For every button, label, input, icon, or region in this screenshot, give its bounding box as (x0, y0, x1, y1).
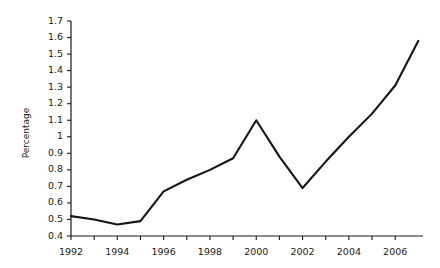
y-tick-label: 1.5 (48, 48, 63, 59)
x-tick-label: 1996 (152, 246, 176, 257)
x-tick-label: 1994 (105, 246, 129, 257)
y-tick-label: 0.7 (48, 180, 63, 191)
y-tick-label: 1.2 (48, 97, 63, 108)
y-tick-label: 0.9 (48, 147, 63, 158)
line-chart: 0.40.50.60.70.80.911.11.21.31.41.51.61.7… (0, 0, 440, 268)
y-tick-label: 0.6 (48, 196, 63, 207)
y-tick-label: 0.5 (48, 213, 63, 224)
chart-background (0, 0, 440, 268)
y-tick-label: 1.7 (48, 15, 63, 26)
y-tick-label: 1 (57, 130, 63, 141)
y-tick-label: 1.1 (48, 114, 63, 125)
x-tick-label: 2004 (337, 246, 361, 257)
x-tick-label: 2006 (383, 246, 407, 257)
x-tick-label: 2002 (290, 246, 314, 257)
x-tick-label: 2000 (244, 246, 268, 257)
y-tick-label: 0.8 (48, 163, 63, 174)
y-axis-title: Percentage (21, 107, 31, 158)
y-tick-label: 1.3 (48, 81, 63, 92)
x-tick-label: 1998 (198, 246, 222, 257)
y-tick-label: 1.4 (48, 64, 63, 75)
y-tick-label: 0.4 (48, 230, 63, 241)
x-tick-label: 1992 (59, 246, 83, 257)
chart-canvas: 0.40.50.60.70.80.911.11.21.31.41.51.61.7… (0, 0, 440, 268)
y-tick-label: 1.6 (48, 31, 63, 42)
